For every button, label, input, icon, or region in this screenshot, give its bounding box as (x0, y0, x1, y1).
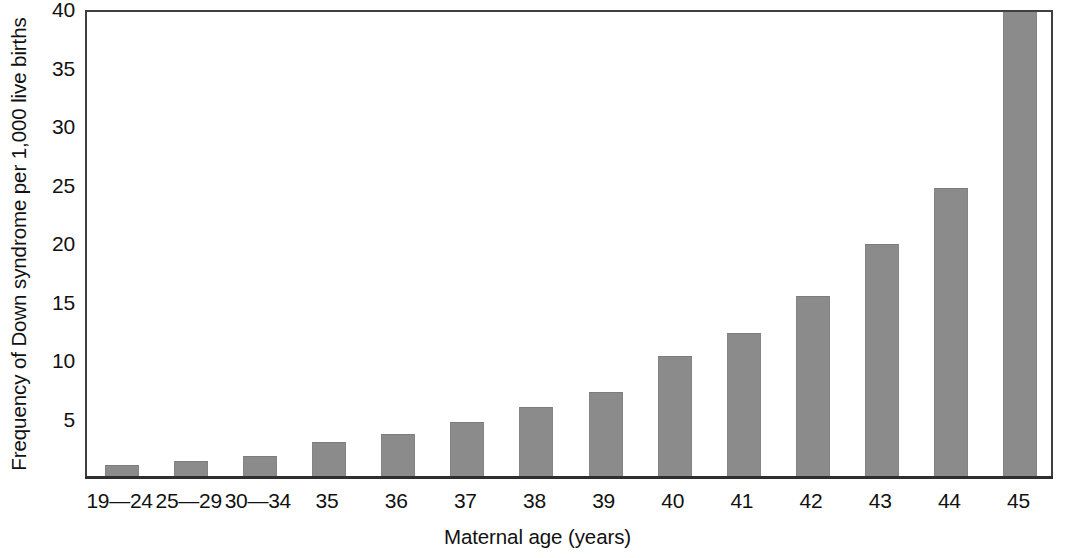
y-tick-label-10: 10 (33, 350, 75, 371)
bar-40 (658, 356, 692, 477)
y-tick-label-15: 15 (33, 292, 75, 313)
bar-42 (796, 296, 830, 476)
y-tick-label-20: 20 (33, 233, 75, 254)
down-syndrome-frequency-bar-chart: Frequency of Down syndrome per 1,000 liv… (0, 0, 1075, 558)
y-tick-label-25: 25 (33, 175, 75, 196)
bar-19-24 (105, 465, 139, 476)
bar-43 (865, 244, 899, 476)
bar-44 (934, 188, 968, 476)
bar-35 (312, 442, 346, 476)
x-axis-title: Maternal age (years) (0, 525, 1075, 549)
plot-area (85, 10, 1053, 478)
y-axis-title: Frequency of Down syndrome per 1,000 liv… (4, 4, 34, 484)
x-axis-line (85, 476, 1053, 479)
y-tick-label-5: 5 (33, 409, 75, 430)
bar-30-34 (243, 456, 277, 476)
y-tick-label-35: 35 (33, 58, 75, 79)
bar-41 (727, 333, 761, 476)
bar-45 (1003, 10, 1037, 476)
x-tick-label-45: 45 (958, 489, 1075, 513)
bar-39 (589, 392, 623, 476)
y-tick-label-30: 30 (33, 116, 75, 137)
bar-38 (519, 407, 553, 476)
bar-25-29 (174, 461, 208, 476)
y-tick-label-40: 40 (33, 0, 75, 20)
bar-36 (381, 434, 415, 476)
bar-37 (450, 422, 484, 476)
